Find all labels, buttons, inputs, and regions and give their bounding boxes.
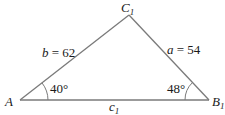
angle-arc-A	[42, 83, 48, 100]
side-label-c1: c1	[109, 99, 119, 115]
triangle-diagram: A B1 C1 b = 62 a = 54 c1 40° 48°	[0, 0, 225, 115]
angle-label-B1: 48°	[167, 81, 185, 96]
angle-arc-B1	[185, 83, 193, 101]
vertex-label-A: A	[4, 94, 13, 109]
vertex-label-C1: C1	[121, 0, 134, 17]
side-label-a: a = 54	[167, 42, 201, 57]
side-label-b: b = 62	[42, 45, 75, 60]
vertex-label-B1: B1	[212, 94, 224, 111]
angle-label-A: 40°	[50, 81, 68, 96]
